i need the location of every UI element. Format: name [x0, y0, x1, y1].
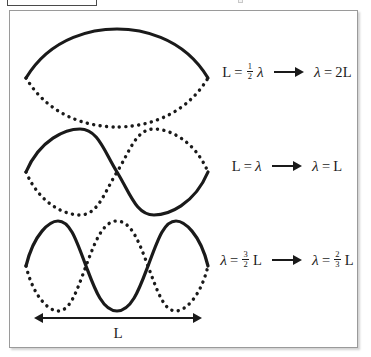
solid-standing-wave-curve — [26, 221, 208, 311]
dotted-standing-wave-curve — [26, 78, 208, 127]
fraction-two-thirds: 2 3 — [334, 250, 340, 268]
page-top-cropped-box — [7, 0, 97, 6]
lambda-symbol: λ — [312, 251, 319, 269]
arrow-head-right — [193, 313, 202, 323]
equation-left-side: L = 1 2 λ — [222, 63, 264, 81]
equation-first-harmonic: L = 1 2 λ λ = 2L — [214, 29, 360, 115]
lambda-symbol: λ — [257, 63, 264, 81]
fraction-one-half: 1 2 — [247, 62, 253, 80]
first-harmonic-wave-graphic — [22, 29, 212, 115]
fraction-denominator: 3 — [334, 259, 340, 269]
standing-waves-figure: L = 1 2 λ λ = 2L L = λ — [9, 10, 358, 348]
equals-sign: = — [322, 158, 330, 175]
fraction-numerator: 3 — [242, 250, 248, 259]
fraction-numerator: 2 — [334, 250, 340, 259]
equals-sign: = — [324, 64, 332, 81]
right-arrow-icon — [272, 254, 302, 266]
page-top-artifact-mark — [238, 0, 243, 3]
equation-left-side: L = λ — [232, 157, 262, 175]
harmonic-row-third — [22, 217, 212, 303]
equals-sign: = — [322, 252, 330, 269]
length-symbol: L — [253, 252, 262, 269]
second-harmonic-wave-graphic — [22, 123, 212, 209]
equation-right-side: λ = L — [312, 157, 342, 175]
arrow-shaft — [40, 317, 196, 319]
length-label: L — [34, 325, 202, 342]
fraction-denominator: 2 — [242, 259, 248, 269]
length-symbol: L — [345, 252, 354, 269]
solid-standing-wave-curve — [26, 129, 208, 215]
equation-lhs-symbol: L — [222, 64, 231, 81]
equals-sign: = — [244, 158, 252, 175]
lambda-symbol: λ — [314, 63, 321, 81]
equation-lhs-symbol: L — [232, 158, 241, 175]
third-harmonic-wave-graphic — [22, 217, 212, 303]
lambda-symbol: λ — [255, 157, 262, 175]
harmonic-row-first — [22, 29, 212, 115]
fraction-numerator: 1 — [247, 62, 253, 71]
lambda-symbol: λ — [220, 251, 227, 269]
right-arrow-icon — [272, 160, 302, 172]
equals-sign: = — [230, 252, 238, 269]
double-headed-arrow-icon — [34, 311, 202, 325]
equation-third-harmonic: λ = 3 2 L λ = 2 3 L — [214, 217, 360, 303]
equation-second-harmonic: L = λ λ = L — [214, 123, 360, 209]
equation-left-side: λ = 3 2 L — [220, 251, 262, 269]
fraction-three-halves: 3 2 — [242, 250, 248, 268]
equals-sign: = — [234, 64, 242, 81]
lambda-symbol: λ — [312, 157, 319, 175]
equation-right-side: λ = 2 3 L — [312, 251, 354, 269]
harmonic-row-second — [22, 123, 212, 209]
fraction-denominator: 2 — [247, 71, 253, 81]
solid-standing-wave-curve — [26, 29, 208, 78]
equation-right-side: λ = 2L — [314, 63, 352, 81]
right-arrow-icon — [274, 66, 304, 78]
equation-result-value: 2L — [335, 64, 352, 81]
dotted-standing-wave-curve — [26, 221, 208, 311]
equation-result-value: L — [333, 158, 342, 175]
